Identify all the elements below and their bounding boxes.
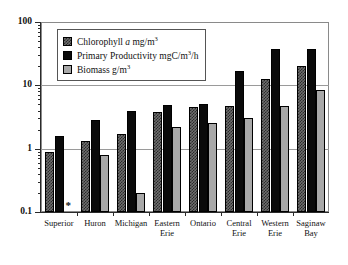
bar-chl-superior [45, 152, 54, 212]
x-tick-1 [113, 212, 114, 216]
y-axis-label-10: 10 [0, 80, 32, 90]
y-tick-minor-8 [38, 91, 41, 92]
bar-pp-saginaw-bay [307, 49, 316, 212]
x-axis-label-central-erie: Central Erie [221, 218, 257, 238]
y-tick-minor-6 [38, 99, 41, 100]
legend-label-primary-productivity: Primary Productivity mgC/m3/h [77, 49, 198, 61]
bar-bio-saginaw-bay [316, 90, 325, 212]
bar-chl-eastern-erie [153, 112, 162, 212]
y-tick-minor-90 [38, 25, 41, 26]
y-tick-minor-4 [38, 111, 41, 112]
y-tick-minor-80 [38, 28, 41, 29]
bar-bio-huron [100, 155, 109, 212]
bar-chl-saginaw-bay [297, 66, 306, 212]
y-tick-minor-0.8 [38, 155, 41, 156]
bar-chl-huron [81, 141, 90, 212]
y-tick-minor-5 [38, 104, 41, 105]
legend-item-primary-productivity: Primary Productivity mgC/m3/h [63, 48, 198, 62]
y-axis-label-1: 1 [0, 144, 32, 154]
y-tick-major-10 [35, 85, 41, 86]
y-tick-major-1 [35, 149, 41, 150]
x-axis-label-eastern-erie: Eastern Erie [149, 218, 185, 238]
x-axis-label-superior: Superior [41, 218, 77, 228]
legend-swatch-primary-productivity-icon [63, 51, 72, 60]
x-axis-label-western-erie: Western Erie [257, 218, 293, 238]
x-axis-label-huron: Huron [77, 218, 113, 228]
y-tick-minor-50 [38, 41, 41, 42]
y-axis-line [40, 22, 41, 212]
x-tick-6 [293, 212, 294, 216]
legend-item-chlorophyll: Chlorophyll a mg/m3 [63, 34, 198, 48]
bar-pp-central-erie [235, 71, 244, 212]
y-tick-minor-7 [38, 95, 41, 96]
x-tick-4 [221, 212, 222, 216]
y-axis-label-0.1: 0.1 [0, 207, 32, 217]
bar-chl-western-erie [261, 79, 270, 212]
y-tick-minor-0.5 [38, 168, 41, 169]
bar-chl-central-erie [225, 106, 234, 212]
x-axis-label-michigan: Michigan [113, 218, 149, 228]
legend-item-biomass: Biomass g/m3 [63, 62, 198, 76]
x-tick-5 [257, 212, 258, 216]
x-tick-0 [77, 212, 78, 216]
gridline-10 [41, 85, 329, 86]
y-tick-minor-40 [38, 47, 41, 48]
x-tick-2 [149, 212, 150, 216]
y-tick-minor-60 [38, 36, 41, 37]
y-tick-minor-0.4 [38, 174, 41, 175]
y-tick-major-100 [35, 22, 41, 23]
x-axis-label-ontario: Ontario [185, 218, 221, 228]
legend-label-biomass: Biomass g/m3 [77, 63, 130, 75]
y-tick-minor-70 [38, 32, 41, 33]
bar-chl-michigan [117, 134, 126, 212]
y-tick-minor-20 [38, 66, 41, 67]
y-tick-minor-0.6000000000000001 [38, 163, 41, 164]
missing-data-asterisk: * [66, 200, 72, 211]
bar-pp-ontario [199, 104, 208, 212]
y-tick-minor-2 [38, 130, 41, 131]
y-axis-label-100: 100 [0, 17, 32, 27]
bar-bio-central-erie [244, 118, 253, 212]
bar-bio-western-erie [280, 106, 289, 212]
legend-label-chlorophyll: Chlorophyll a mg/m3 [77, 35, 158, 47]
bar-bio-michigan [136, 193, 145, 212]
legend-swatch-biomass-icon [63, 65, 72, 74]
y-tick-minor-3 [38, 118, 41, 119]
x-axis-label-saginaw-bay: Saginaw Bay [293, 218, 329, 238]
bar-chl-ontario [189, 107, 198, 212]
legend-swatch-chlorophyll-icon [63, 37, 72, 46]
bar-pp-huron [91, 120, 100, 212]
log-bar-chart: 0.1110100 SuperiorHuronMichiganEastern E… [0, 0, 348, 265]
y-tick-minor-0.9 [38, 152, 41, 153]
y-tick-minor-30 [38, 55, 41, 56]
x-tick-3 [185, 212, 186, 216]
y-tick-minor-0.7000000000000001 [38, 158, 41, 159]
bar-pp-western-erie [271, 49, 280, 212]
y-tick-minor-0.30000000000000004 [38, 182, 41, 183]
bar-pp-michigan [127, 111, 136, 212]
bar-pp-superior [55, 136, 64, 212]
y-tick-minor-9 [38, 88, 41, 89]
chart-legend: Chlorophyll a mg/m3 Primary Productivity… [57, 29, 206, 81]
bar-bio-eastern-erie [172, 127, 181, 212]
y-tick-minor-0.2 [38, 193, 41, 194]
bar-bio-ontario [208, 123, 217, 212]
bar-pp-eastern-erie [163, 105, 172, 212]
